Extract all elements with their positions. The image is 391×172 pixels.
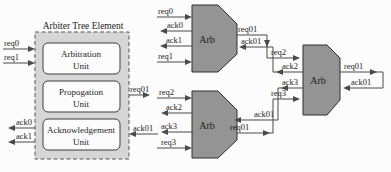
ate-signal-ack1: ack1 bbox=[8, 131, 35, 145]
ate-signal-ack0: ack0 bbox=[8, 117, 35, 131]
top-ack01-label: ack01 bbox=[241, 36, 261, 46]
propogation-unit-label-2: Unit bbox=[73, 99, 90, 109]
arbiter-tree-element: Arbiter Tree Element Arbitration Unit Pr… bbox=[3, 21, 158, 159]
acknowledgement-unit: Acknowledgement Unit bbox=[43, 119, 120, 150]
wire-ack3-to-bottom-ack01: ack3 ack01 bbox=[234, 77, 303, 123]
acknowledgement-unit-label: Acknowledgement bbox=[47, 125, 115, 135]
root-ack01-label: ack01 bbox=[351, 77, 371, 87]
ack0-arrow-icon bbox=[8, 125, 15, 131]
req1-label: req1 bbox=[4, 52, 19, 62]
req1-arrow-icon bbox=[28, 60, 35, 66]
top-arb: Arb req0 ack0 ack1 req1 bbox=[157, 5, 237, 72]
top-arb-signal-ack0: ack0 bbox=[160, 20, 192, 34]
bottom-arb-signal-req3: req3 bbox=[157, 137, 192, 151]
bottom-arb-signal-req2: req2 bbox=[157, 87, 192, 101]
wire-root-req01-ack01-loop: req01 ack01 bbox=[340, 61, 383, 91]
root-arb: Arb bbox=[303, 45, 340, 115]
ate-signal-req1: req1 bbox=[3, 52, 35, 66]
propogation-unit-label: Propogation bbox=[59, 87, 103, 97]
bottom-arb-signal-ack2: ack2 bbox=[161, 102, 192, 116]
ack1-arrow-icon bbox=[8, 139, 15, 145]
arbiter-tree-element-title: Arbiter Tree Element bbox=[43, 21, 124, 31]
req3-arrow-icon bbox=[293, 96, 300, 102]
bottom-req2-label: req2 bbox=[159, 87, 174, 97]
arbitration-unit-label: Arbitration bbox=[61, 49, 101, 59]
req01-bottom-mid-arrow-icon bbox=[263, 130, 270, 136]
ate-signal-ack01: ack01 bbox=[129, 123, 158, 137]
ack1-label: ack1 bbox=[16, 131, 32, 141]
root-ack01-arrow-icon bbox=[343, 85, 350, 91]
req01-mid-arrow-icon bbox=[264, 40, 270, 47]
ack0-label: ack0 bbox=[16, 117, 32, 127]
top-req1-label: req1 bbox=[158, 51, 173, 61]
bottom-arb-label: Arb bbox=[199, 120, 215, 131]
root-req01-label: req01 bbox=[344, 61, 363, 71]
top-req0-arrow-icon bbox=[185, 14, 192, 20]
top-ack1-label: ack1 bbox=[166, 35, 182, 45]
top-ack0-label: ack0 bbox=[167, 20, 183, 30]
req01-label: req01 bbox=[130, 84, 149, 94]
root-ack2-label: ack2 bbox=[282, 61, 298, 71]
top-req1-arrow-icon bbox=[185, 59, 192, 65]
root-arb-label: Arb bbox=[310, 75, 326, 86]
bottom-req2-arrow-icon bbox=[185, 95, 192, 101]
ate-signal-req01: req01 bbox=[129, 84, 150, 98]
top-ack0-arrow-icon bbox=[160, 28, 167, 34]
top-arb-label: Arb bbox=[199, 34, 215, 45]
top-req0-label: req0 bbox=[158, 6, 173, 16]
ate-signal-req0: req0 bbox=[3, 38, 35, 52]
req0-label: req0 bbox=[4, 38, 19, 48]
bottom-ack2-label: ack2 bbox=[166, 102, 182, 112]
arbitration-unit-label-2: Unit bbox=[73, 61, 90, 71]
ack01-label: ack01 bbox=[133, 123, 153, 133]
top-req01-label: req01 bbox=[238, 24, 257, 34]
bottom-ack01-label: ack01 bbox=[254, 109, 274, 119]
arbiter-tree-diagram: Arbiter Tree Element Arbitration Unit Pr… bbox=[0, 0, 391, 172]
root-req3-label: req3 bbox=[271, 88, 286, 98]
root-req01-arrow-icon bbox=[370, 69, 377, 75]
top-arb-signal-req1: req1 bbox=[157, 51, 192, 65]
bottom-req01-label: req01 bbox=[230, 122, 249, 132]
arbitration-unit: Arbitration Unit bbox=[43, 43, 120, 74]
acknowledgement-unit-label-2: Unit bbox=[73, 137, 90, 147]
bottom-req3-label: req3 bbox=[161, 137, 176, 147]
bottom-req3-arrow-icon bbox=[185, 145, 192, 151]
propogation-unit: Propogation Unit bbox=[43, 81, 120, 112]
root-ack3-label: ack3 bbox=[282, 77, 298, 87]
top-arb-signal-req0: req0 bbox=[157, 6, 192, 20]
bottom-arb-signal-ack3: ack3 bbox=[161, 121, 192, 135]
req0-arrow-icon bbox=[28, 46, 35, 52]
bottom-ack3-label: ack3 bbox=[161, 121, 177, 131]
bottom-arb: Arb req2 ack2 ack3 req3 bbox=[157, 87, 237, 158]
top-arb-signal-ack1: ack1 bbox=[160, 35, 192, 49]
